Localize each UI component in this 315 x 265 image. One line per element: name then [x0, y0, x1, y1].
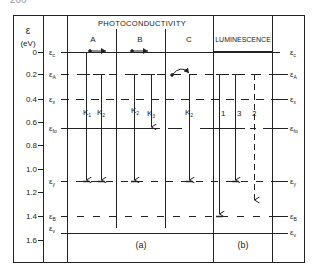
label-lum-2: 2 — [252, 109, 257, 118]
label-k2-a: K2 — [97, 108, 105, 118]
right-label-ey: εy — [290, 177, 297, 187]
label-lum-3: 3 — [237, 109, 242, 118]
tick-label: 1.0 — [26, 165, 38, 174]
label-lum-1: 1 — [221, 109, 226, 118]
axis-symbol: ε — [26, 25, 31, 36]
header-col-a: A — [90, 35, 96, 44]
energy-level-diagram: ε (eV) 0 0.2 0.4 0.6 0.8 1.0 1.2 1.4 1.6… — [0, 0, 315, 265]
header-photoconductivity: PHOTOCONDUCTIVITY — [98, 19, 186, 28]
left-label-ey: εy — [49, 177, 56, 187]
right-label-eb: εB — [290, 212, 298, 222]
tick-label: 1.4 — [26, 212, 38, 221]
tick-label: 0.6 — [26, 118, 38, 127]
left-label-ea: εA — [49, 70, 57, 80]
panel-label-a: (a) — [136, 240, 147, 250]
header-luminescence: LUMINESCENCE — [215, 36, 271, 43]
tick-label: 0.2 — [26, 70, 38, 79]
header-col-c: C — [186, 35, 192, 44]
label-k1: K1 — [83, 108, 91, 118]
tick-label: 0 — [33, 48, 38, 57]
left-label-eb: εB — [49, 212, 57, 222]
left-label-ec: εc — [49, 48, 56, 58]
left-label-ex: εx — [49, 95, 56, 105]
left-label-ev: εv — [49, 224, 56, 234]
tick-label: 0.4 — [26, 95, 38, 104]
label-k3: K3 — [147, 109, 155, 119]
right-label-ev: εv — [290, 228, 297, 238]
label-k2-c: K2 — [185, 108, 193, 118]
right-label-efo: εfo — [290, 124, 298, 134]
right-label-ex: εx — [290, 95, 297, 105]
tick-label: 1.6 — [26, 236, 38, 245]
panel-label-b: (b) — [238, 240, 249, 250]
tick-label: 1.2 — [26, 188, 38, 197]
tick-label: 0.8 — [26, 141, 38, 150]
left-label-efo: εfo — [49, 124, 57, 134]
axis-unit: (eV) — [20, 39, 35, 48]
header-col-b: B — [137, 35, 142, 44]
label-k2-b: K2 — [131, 106, 139, 116]
right-label-ec: εc — [290, 48, 297, 58]
right-label-ea: εA — [290, 70, 298, 80]
axis-ticks — [38, 53, 43, 241]
